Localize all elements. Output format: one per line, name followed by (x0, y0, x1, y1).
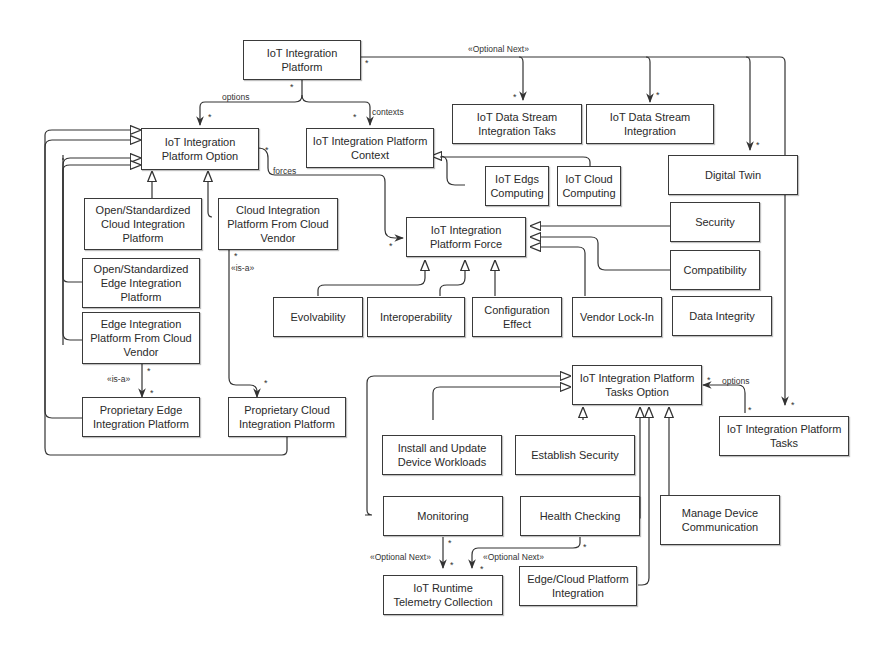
box-ds-integration: IoT Data Stream Integration (586, 104, 714, 144)
label-options: options (222, 92, 249, 102)
box-digital-twin: Digital Twin (668, 155, 798, 195)
label-options-tasks: options (722, 376, 749, 386)
box-vendor-lockin: Vendor Lock-In (572, 297, 662, 337)
box-platform-context: IoT Integration Platform Context (306, 128, 434, 168)
multiplicity: * (748, 405, 752, 415)
multiplicity: * (583, 542, 587, 552)
box-open-edge: Open/Standardized Edge Integration Platf… (82, 258, 200, 308)
box-platform-tasks: IoT Integration Platform Tasks (719, 416, 849, 456)
box-telemetry-collection: IoT Runtime Telemetry Collection (383, 575, 503, 615)
multiplicity: * (656, 90, 660, 100)
label-optional-next-monitoring: «Optional Next» (370, 552, 431, 562)
box-ds-integration-tasks: IoT Data Stream Integration Taks (452, 104, 582, 144)
box-install-update: Install and Update Device Workloads (382, 435, 502, 475)
multiplicity: * (791, 400, 795, 410)
box-prop-edge: Proprietary Edge Integration Platform (82, 397, 200, 437)
multiplicity: * (513, 92, 517, 102)
multiplicity: * (264, 378, 268, 388)
multiplicity: * (150, 388, 154, 398)
box-health-checking: Health Checking (520, 496, 640, 536)
box-platform-option: IoT Integration Platform Option (141, 128, 259, 170)
box-manage-communication: Manage Device Communication (660, 495, 780, 545)
multiplicity: * (480, 564, 484, 574)
box-monitoring: Monitoring (383, 496, 503, 536)
box-interoperability: Interoperability (367, 297, 465, 337)
multiplicity: * (147, 366, 151, 376)
box-cloud-vendor: Cloud Integration Platform From Cloud Ve… (218, 198, 338, 250)
box-compatibility: Compatibility (670, 250, 760, 290)
label-is-a-edge: «is-a» (107, 374, 130, 384)
multiplicity: * (265, 145, 269, 155)
multiplicity: * (448, 538, 452, 548)
box-open-cloud: Open/Standardized Cloud Integration Plat… (84, 198, 202, 250)
multiplicity: * (707, 375, 711, 385)
multiplicity: * (208, 112, 212, 122)
multiplicity: * (353, 112, 357, 122)
box-iot-integration-platform: IoT Integration Platform (243, 40, 361, 80)
multiplicity: * (365, 58, 369, 68)
box-tasks-option: IoT Integration Platform Tasks Option (572, 365, 702, 405)
multiplicity: * (389, 241, 393, 251)
multiplicity: * (234, 251, 238, 261)
label-optional-next-health: «Optional Next» (483, 552, 544, 562)
box-cloud-computing: IoT Cloud Computing (557, 166, 621, 206)
multiplicity: * (290, 82, 294, 92)
label-optional-next-top: «Optional Next» (468, 44, 529, 54)
multiplicity: * (756, 140, 760, 150)
box-edge-computing: IoT Edgs Computing (485, 166, 549, 206)
box-platform-force: IoT Integration Platform Force (406, 217, 526, 257)
box-edge-vendor: Edge Integration Platform From Cloud Ven… (82, 312, 200, 364)
box-prop-cloud: Proprietary Cloud Integration Platform (228, 397, 346, 437)
box-edge-cloud-integration: Edge/Cloud Platform Integration (519, 566, 637, 606)
box-data-integrity: Data Integrity (672, 296, 772, 336)
box-security: Security (670, 202, 760, 242)
box-evolvability: Evolvability (273, 297, 363, 337)
label-is-a-cloud: «is-a» (231, 263, 254, 273)
label-contexts: contexts (372, 107, 404, 117)
box-configuration-effect: Configuration Effect (472, 297, 562, 337)
box-establish-security: Establish Security (515, 435, 635, 475)
multiplicity: * (450, 560, 454, 570)
label-forces: forces (273, 166, 296, 176)
